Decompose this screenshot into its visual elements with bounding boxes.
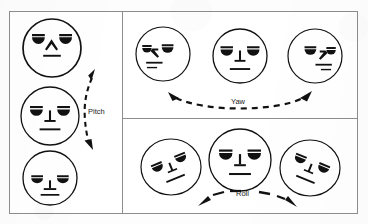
face-outline: [23, 151, 77, 205]
face-outline: [288, 29, 342, 83]
face-roll-right: [280, 140, 340, 196]
face-roll-left: [141, 139, 201, 195]
face-pitch-down: [23, 151, 77, 205]
panel-roll: Roll: [141, 129, 340, 207]
face-outline: [136, 27, 190, 81]
face-pitch-center: [21, 87, 79, 145]
face-yaw-left: [136, 27, 190, 81]
figure-root: Pitch: [0, 0, 368, 224]
roll-axis-label: Roll: [236, 189, 249, 198]
face-pitch-up: [23, 19, 81, 77]
face-yaw-center: [213, 29, 267, 83]
yaw-axis-label: Yaw: [231, 97, 246, 106]
head-pose-diagram: Pitch: [0, 0, 368, 224]
face-outline: [23, 19, 81, 77]
face-yaw-right: [288, 29, 342, 83]
pitch-axis-label: Pitch: [88, 107, 105, 116]
face-roll-center: [209, 129, 271, 191]
